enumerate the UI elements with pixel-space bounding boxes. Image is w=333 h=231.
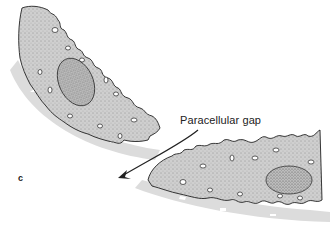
paracellular-gap-label: Paracellular gap: [180, 114, 261, 126]
lower-nucleus: [266, 166, 312, 194]
paracellular-diagram: [0, 0, 333, 231]
panel-label: c: [18, 173, 23, 183]
upper-cell: [19, 6, 160, 143]
